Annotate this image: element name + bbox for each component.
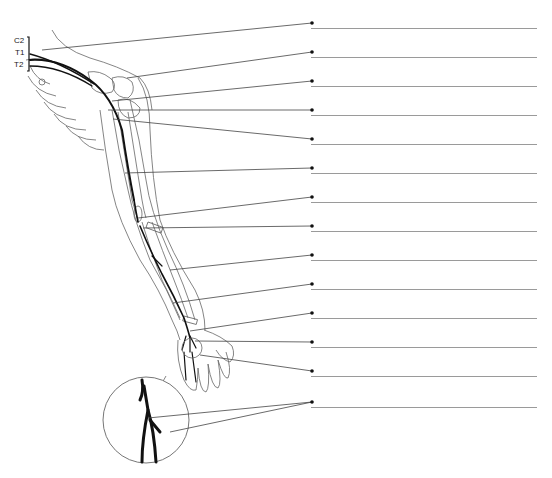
answer-underline	[311, 407, 537, 408]
segment-label-c2: C2	[14, 37, 24, 45]
segment-label-t2: T2	[14, 61, 23, 69]
answer-field-10[interactable]	[311, 280, 537, 290]
answer-underline	[311, 289, 537, 290]
ribcage	[28, 66, 104, 150]
answer-underline	[311, 202, 537, 203]
wrist-inset	[103, 376, 189, 463]
answer-field-1[interactable]	[311, 19, 537, 29]
answer-underline	[311, 260, 537, 261]
spinal-bracket	[27, 37, 29, 71]
answer-underline	[311, 376, 537, 377]
answer-field-2[interactable]	[311, 48, 537, 58]
answer-underline	[311, 144, 537, 145]
answer-field-7[interactable]	[311, 193, 537, 203]
answer-field-13[interactable]	[311, 367, 537, 377]
answer-underline	[311, 347, 537, 348]
answer-underline	[311, 173, 537, 174]
answer-underline	[311, 86, 537, 87]
answer-field-5[interactable]	[311, 135, 537, 145]
answer-field-3[interactable]	[311, 77, 537, 87]
answer-field-9[interactable]	[311, 251, 537, 261]
answer-underline	[311, 115, 537, 116]
segment-label-t1: T1	[15, 49, 24, 57]
answer-underline	[311, 28, 537, 29]
answer-underline	[311, 57, 537, 58]
hand-outline	[178, 330, 234, 392]
answer-field-14[interactable]	[311, 398, 537, 408]
answer-field-6[interactable]	[311, 164, 537, 174]
answer-field-11[interactable]	[311, 309, 537, 319]
answer-field-4[interactable]	[311, 106, 537, 116]
answer-field-8[interactable]	[311, 222, 537, 232]
answer-field-12[interactable]	[311, 338, 537, 348]
answer-underline	[311, 231, 537, 232]
answer-underline	[311, 318, 537, 319]
leader-lines	[42, 23, 312, 432]
body-outline	[26, 30, 205, 340]
nerve-path	[30, 54, 196, 382]
